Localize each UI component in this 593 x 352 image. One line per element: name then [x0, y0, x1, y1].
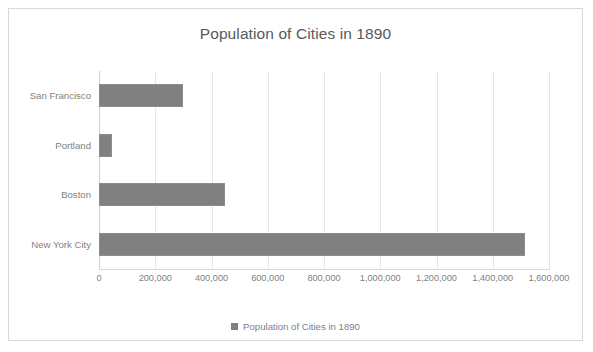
x-tick-label: 800,000 — [307, 273, 340, 283]
bar-row: Boston — [99, 170, 549, 220]
bar-series: San FranciscoPortlandBostonNew York City — [99, 71, 549, 269]
x-axis-tick-labels: 0200,000400,000600,000800,0001,000,0001,… — [99, 273, 549, 289]
chart-frame: Population of Cities in 1890 San Francis… — [8, 8, 583, 341]
legend-label: Population of Cities in 1890 — [243, 321, 360, 332]
bar-row: Portland — [99, 121, 549, 171]
bar — [99, 183, 225, 206]
legend-swatch-icon — [231, 323, 238, 330]
x-tick-label: 1,400,000 — [472, 273, 513, 283]
category-label: Boston — [61, 183, 91, 206]
x-tick-label: 1,000,000 — [360, 273, 401, 283]
category-label: New York City — [31, 233, 91, 256]
category-label: Portland — [55, 134, 91, 157]
plot-area: San FranciscoPortlandBostonNew York City — [99, 71, 549, 269]
chart-legend: Population of Cities in 1890 — [9, 321, 582, 332]
x-tick-label: 200,000 — [139, 273, 172, 283]
category-label: San Francisco — [30, 84, 91, 107]
bar-row: San Francisco — [99, 71, 549, 121]
bar — [99, 233, 525, 256]
x-tick-label: 400,000 — [195, 273, 228, 283]
x-tick-label: 1,600,000 — [529, 273, 570, 283]
bar-row: New York City — [99, 220, 549, 270]
x-axis-line — [99, 269, 550, 270]
x-tick-label: 1,200,000 — [416, 273, 457, 283]
x-tick-label: 600,000 — [251, 273, 284, 283]
gridline — [549, 71, 550, 269]
bar — [99, 134, 112, 157]
x-tick-label: 0 — [96, 273, 101, 283]
chart-title: Population of Cities in 1890 — [9, 25, 582, 43]
bar — [99, 84, 183, 107]
